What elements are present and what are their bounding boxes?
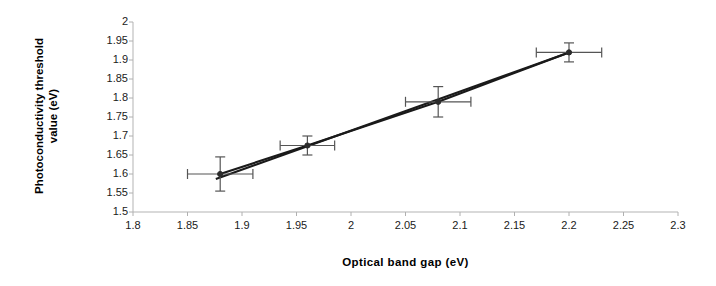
x-axis-tick-label: 1.9: [212, 219, 272, 231]
y-axis-tick-label: 1.8: [78, 91, 128, 103]
x-axis-tick-label: 2.2: [539, 219, 599, 231]
x-axis-tick-label: 2.15: [485, 219, 545, 231]
y-axis-tick-label: 1.6: [78, 167, 128, 179]
y-axis-tick-label: 1.9: [78, 53, 128, 65]
x-axis-tick-label: 2.1: [430, 219, 490, 231]
y-axis-tick-label: 2: [78, 15, 128, 27]
x-axis-tick-label: 1.8: [103, 219, 163, 231]
x-axis-tick-label: 2.25: [594, 219, 654, 231]
y-axis-tick-label: 1.7: [78, 129, 128, 141]
y-axis-tick-labels: 1.51.551.61.651.71.751.81.851.91.952: [76, 0, 128, 286]
y-axis-tick-label: 1.85: [78, 72, 128, 84]
y-axis-tick-label: 1.5: [78, 205, 128, 217]
x-axis-tick-label: 2: [321, 219, 381, 231]
x-axis-tick-label: 1.95: [267, 219, 327, 231]
x-axis-tick-label: 2.05: [376, 219, 436, 231]
y-axis-tick-label: 1.65: [78, 148, 128, 160]
y-axis-tick-label: 1.55: [78, 186, 128, 198]
y-axis-tick-label: 1.95: [78, 34, 128, 46]
y-axis-tick-label: 1.75: [78, 110, 128, 122]
x-axis-title: Optical band gap (eV): [133, 256, 678, 268]
x-axis-tick-label: 1.85: [158, 219, 218, 231]
x-axis-tick-label: 2.3: [648, 219, 708, 231]
